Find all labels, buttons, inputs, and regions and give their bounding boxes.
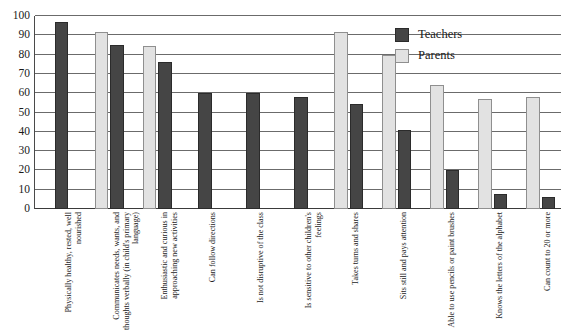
- x-tick-label-1: Communicates needs, wants, and thoughts …: [112, 212, 141, 330]
- bar-teachers-7: [398, 130, 412, 209]
- x-axis-labels: Physically healthy, rested, well nourish…: [34, 209, 561, 333]
- y-tick-label-10: 10: [0, 184, 30, 196]
- x-tick-label-10: Can count to 20 or more: [543, 212, 553, 330]
- y-tick-label-30: 30: [0, 145, 30, 157]
- x-tick-label-7: Sits still and pays attention: [399, 212, 409, 330]
- y-tick-label-0: 0: [0, 203, 30, 215]
- x-tick-label-5: Is sensitive to other children's feeling…: [304, 212, 323, 330]
- bar-teachers-3: [198, 93, 212, 209]
- chart-title: [0, 0, 573, 1]
- chart-legend: TeachersParents: [395, 24, 515, 66]
- legend-label-parents: Parents: [418, 49, 455, 62]
- legend-swatch-parents: [395, 49, 409, 63]
- bar-teachers-9: [494, 194, 508, 209]
- bar-teachers-6: [350, 104, 364, 209]
- x-tick-label-3: Can follow directions: [208, 212, 218, 330]
- bar-teachers-1: [110, 45, 124, 209]
- bar-teachers-0: [55, 22, 69, 209]
- bar-teachers-4: [246, 93, 260, 209]
- x-tick-label-2: Enthusiastic and curious in approaching …: [160, 212, 179, 330]
- y-tick-label-70: 70: [0, 68, 30, 80]
- legend-item-teachers[interactable]: Teachers: [395, 24, 515, 45]
- y-axis-labels: 1009080706050403020100: [0, 16, 30, 209]
- bar-teachers-10: [542, 197, 556, 209]
- bar-chart: 1009080706050403020100 Physically health…: [0, 0, 573, 333]
- y-tick-label-90: 90: [0, 30, 30, 42]
- bar-parents-8: [430, 85, 444, 209]
- y-tick-label-100: 100: [0, 10, 30, 22]
- y-tick-label-50: 50: [0, 107, 30, 119]
- bar-teachers-8: [446, 170, 460, 209]
- x-tick-label-9: Knows the letters of the alphabet: [495, 212, 505, 330]
- y-tick-label-60: 60: [0, 87, 30, 99]
- bar-parents-6: [334, 32, 348, 209]
- legend-swatch-teachers: [395, 28, 409, 42]
- bar-parents-1: [95, 32, 109, 209]
- legend-item-parents[interactable]: Parents: [395, 45, 515, 66]
- bar-parents-7: [382, 55, 396, 209]
- y-tick-label-20: 20: [0, 165, 30, 177]
- bar-teachers-2: [158, 62, 172, 209]
- bar-teachers-5: [294, 97, 308, 209]
- y-tick-label-40: 40: [0, 126, 30, 138]
- x-tick-label-6: Takes turns and shares: [351, 212, 361, 330]
- x-tick-label-0: Physically healthy, rested, well nourish…: [64, 212, 83, 330]
- legend-label-teachers: Teachers: [418, 28, 462, 41]
- x-tick-label-8: Able to use pencils or paint brushes: [447, 212, 457, 330]
- x-tick-label-4: Is not disruptive of the class: [256, 212, 266, 330]
- bar-parents-2: [143, 46, 157, 209]
- y-tick-label-80: 80: [0, 49, 30, 61]
- bar-parents-10: [526, 97, 540, 209]
- bar-parents-9: [478, 99, 492, 209]
